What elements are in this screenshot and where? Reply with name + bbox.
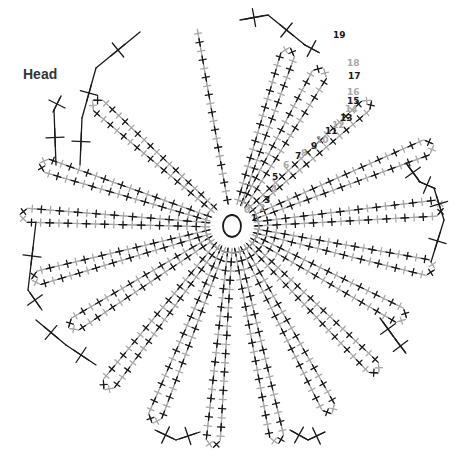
row-number: 10: [316, 135, 329, 145]
row-number: 1: [251, 213, 257, 223]
magic-ring: [223, 215, 241, 237]
row-number: 16: [347, 87, 360, 97]
row-number: 8: [301, 148, 307, 158]
crochet-chart: 012345678910111213141516171819: [0, 0, 466, 466]
row-number: 17: [348, 71, 361, 81]
row-number: 3: [264, 195, 270, 205]
row-number: 18: [347, 58, 360, 68]
row-number: 15: [347, 96, 360, 106]
row-number: 6: [283, 160, 289, 170]
row-number: 5: [272, 172, 278, 182]
row-number: 0: [244, 205, 250, 215]
row-number: 4: [271, 184, 277, 194]
row-number: 19: [333, 30, 346, 40]
row-number: 13: [340, 113, 353, 123]
